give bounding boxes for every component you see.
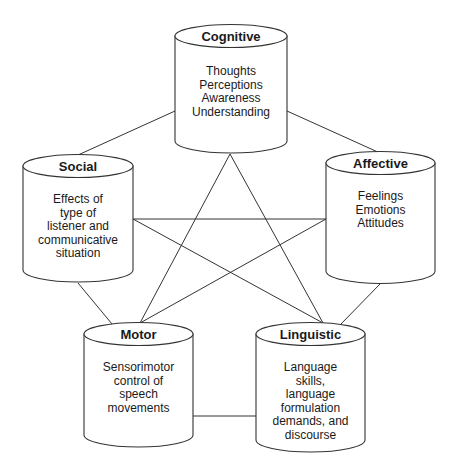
description-line: Understanding [175, 106, 287, 120]
description-line: demands, and [256, 415, 365, 429]
node-description: Effects of type of listener and communic… [23, 193, 133, 261]
node-motor: Motor Sensorimotor control of speech mov… [84, 323, 193, 447]
node-title: Motor [84, 327, 193, 342]
node-title: Linguistic [256, 327, 365, 342]
edge-social-motor [78, 283, 112, 324]
node-description: Sensorimotor control of speech movements [84, 361, 193, 415]
description-line: formulation [256, 402, 365, 416]
node-description: Thoughts Perceptions Awareness Understan… [175, 65, 287, 119]
description-line: Perceptions [175, 79, 287, 93]
description-line: type of [23, 207, 133, 221]
description-line: listener and [23, 220, 133, 234]
description-line: language [256, 388, 365, 402]
description-line: Attitudes [326, 217, 435, 231]
description-line: Thoughts [175, 65, 287, 79]
description-line: Awareness [175, 92, 287, 106]
description-line: movements [84, 402, 193, 416]
edge-affective-linguistic [341, 284, 380, 324]
description-line: communicative [23, 234, 133, 248]
edge-cognitive-social [78, 111, 175, 155]
description-line: control of [84, 375, 193, 389]
node-description: Language skills, language formulation de… [256, 361, 365, 442]
description-line: Sensorimotor [84, 361, 193, 375]
node-title: Social [23, 159, 133, 174]
node-social: Social Effects of type of listener and c… [23, 155, 133, 283]
description-line: Emotions [326, 204, 435, 218]
node-title: Cognitive [175, 29, 287, 44]
description-line: situation [23, 247, 133, 261]
description-line: speech [84, 388, 193, 402]
description-line: discourse [256, 429, 365, 443]
node-affective: Affective Feelings Emotions Attitudes [326, 152, 435, 284]
description-line: Feelings [326, 190, 435, 204]
description-line: skills, [256, 375, 365, 389]
node-description: Feelings Emotions Attitudes [326, 190, 435, 231]
node-linguistic: Linguistic Language skills, language for… [256, 323, 365, 452]
node-title: Affective [326, 156, 435, 171]
description-line: Language [256, 361, 365, 375]
description-line: Effects of [23, 193, 133, 207]
node-cognitive: Cognitive Thoughts Perceptions Awareness… [175, 25, 287, 155]
edge-cognitive-affective [287, 111, 380, 153]
